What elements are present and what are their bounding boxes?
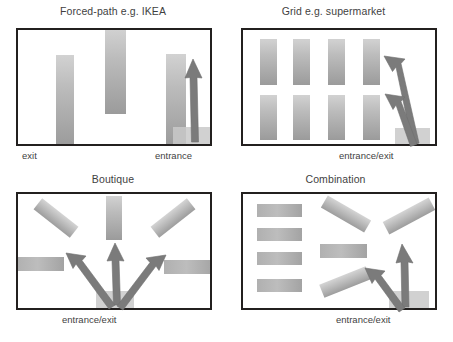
panel-forced-path: Forced-path e.g. IKEA exit entrance — [0, 4, 226, 170]
caption-entrance: entrance — [155, 150, 192, 162]
caption-entrance-exit: entrance/exit — [336, 314, 390, 326]
panel-title-boutique: Boutique — [0, 173, 226, 186]
shelf-fixture — [257, 279, 302, 292]
panel-combination: Combination entrance/exit — [226, 172, 453, 342]
shelf-fixture — [293, 39, 310, 85]
entrance-pad — [173, 127, 210, 144]
caption-entrance-exit: entrance/exit — [62, 314, 116, 326]
caption-entrance-exit: entrance/exit — [339, 150, 393, 162]
shelf-fixture — [257, 228, 302, 241]
floorplan-interior — [18, 194, 210, 308]
shelf-fixture — [320, 244, 367, 258]
caption-exit: exit — [22, 150, 37, 162]
shelf-fixture — [164, 260, 210, 274]
shelf-fixture — [257, 252, 302, 265]
panel-boutique: Boutique entrance/exit — [0, 172, 226, 342]
shelf-fixture — [383, 198, 435, 235]
store-floorplan-forced-path — [16, 28, 212, 146]
shelf-fixture — [328, 95, 345, 140]
shelf-fixture — [34, 198, 79, 237]
shelf-fixture — [105, 30, 126, 114]
store-floorplan-combination — [241, 192, 437, 310]
panel-title-grid: Grid e.g. supermarket — [220, 5, 447, 18]
floorplan-interior — [18, 30, 210, 144]
shelf-fixture — [56, 55, 74, 144]
panel-title-combination: Combination — [222, 173, 449, 186]
store-floorplan-grid — [241, 28, 437, 146]
floorplan-interior — [243, 30, 435, 144]
shelf-fixture — [328, 39, 345, 85]
shelf-fixture — [363, 95, 380, 140]
entrance-exit-pad — [389, 291, 429, 308]
entrance-exit-pad — [96, 291, 134, 308]
shelf-fixture — [319, 266, 371, 298]
panel-title-forced-path: Forced-path e.g. IKEA — [0, 5, 226, 18]
shelf-fixture — [257, 204, 302, 217]
shelf-fixture — [363, 39, 380, 85]
shelf-fixture — [18, 257, 64, 271]
shelf-fixture — [260, 95, 277, 140]
shelf-fixture — [321, 195, 371, 232]
entrance-exit-pad — [395, 128, 430, 144]
store-layout-figure: Forced-path e.g. IKEA exit entrance Grid… — [0, 0, 453, 342]
store-floorplan-boutique — [16, 192, 212, 310]
shelf-fixture — [293, 95, 310, 140]
shelf-fixture — [151, 198, 196, 237]
floorplan-interior — [243, 194, 435, 308]
panel-grid: Grid e.g. supermarket entrance/exit — [226, 4, 453, 170]
shelf-fixture — [106, 196, 122, 240]
shelf-fixture — [260, 39, 277, 85]
